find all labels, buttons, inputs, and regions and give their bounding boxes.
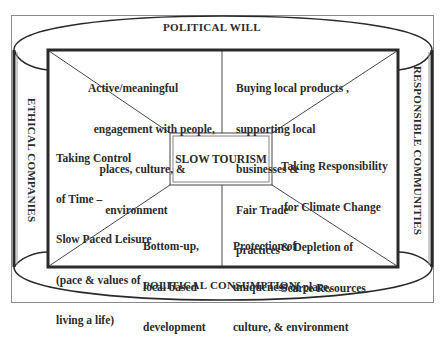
- segment-line: Slow Paced Leisure: [56, 233, 152, 247]
- segment-line: Taking Responsibility: [281, 160, 388, 174]
- segment-bottom-left: Bottom-up, local based development: [143, 213, 206, 338]
- bottom-ellipse-back: [14, 252, 48, 267]
- top-ellipse-front-left: [14, 50, 48, 70]
- segment-line: local based: [143, 281, 206, 295]
- segment-line: Active/meaningful: [88, 82, 215, 96]
- segment-left: Taking Control of Time – Slow Paced Leis…: [56, 125, 152, 338]
- segment-line: Bottom-up,: [143, 240, 206, 254]
- segment-line: for Climate Change: [281, 201, 388, 215]
- segment-line: Taking Control: [56, 152, 152, 166]
- segment-line: development: [143, 321, 206, 335]
- bottom-ellipse-back-right: [398, 252, 432, 267]
- segment-line: Protection of: [233, 240, 349, 254]
- segment-line: culture, & environment: [233, 321, 349, 335]
- ring-label-top: POLITICAL WILL: [163, 21, 261, 33]
- segment-bottom-right: Protection of uniqueness of place, cultu…: [233, 213, 349, 338]
- segment-line: uniqueness of place,: [233, 281, 349, 295]
- segment-line: living a life): [56, 314, 152, 328]
- ring-label-left: ETHICAL COMPANIES: [26, 98, 38, 222]
- segment-line: of Time –: [56, 193, 152, 207]
- segment-line: (pace & values of: [56, 274, 152, 288]
- ring-label-right: RESPONSIBLE COMMUNITIES: [412, 66, 424, 235]
- segment-line: Buying local products ,: [236, 82, 349, 96]
